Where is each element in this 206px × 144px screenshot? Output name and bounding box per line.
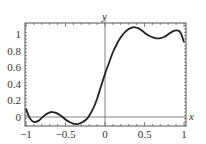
y-tick-label: 0.4 [7,78,21,90]
y-tick-label: 0 [16,111,22,123]
x-tick-label: −0.5 [56,128,76,140]
y-tick-label: 0.2 [7,94,21,106]
line-chart: 00.20.40.60.81−1−0.500.51 x y [0,0,206,144]
y-axis-label: y [101,10,107,22]
x-axis-label: x [188,110,194,122]
x-tick-label: −1 [20,128,32,140]
y-tick-label: 0.6 [7,61,21,73]
x-tick-label: 0 [102,128,108,140]
y-tick-label: 1 [16,28,22,40]
x-tick-label: 1 [181,128,187,140]
x-tick-label: 0.5 [138,128,152,140]
y-tick-label: 0.8 [7,45,21,57]
tick-labels: 00.20.40.60.81−1−0.500.51 [7,28,187,140]
